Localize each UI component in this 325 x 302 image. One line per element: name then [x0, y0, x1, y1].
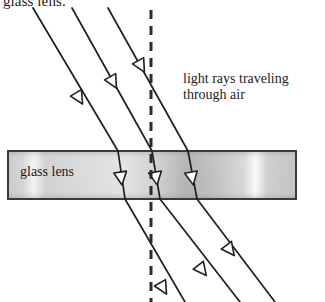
- ray-arrowhead: [132, 58, 150, 76]
- ray-arrowhead: [70, 90, 88, 108]
- ray-arrowhead: [154, 280, 172, 298]
- glass-lens-label: glass lens: [20, 164, 74, 180]
- air-label-line-1: light rays traveling: [183, 71, 289, 87]
- ray-diagram-canvas: glass lens. glass lens light rays travel…: [0, 0, 325, 302]
- light-rays-air-label: light rays traveling through air: [183, 71, 289, 103]
- ray-arrowhead: [104, 74, 122, 92]
- air-label-line-2: through air: [183, 87, 289, 103]
- top-clipped-label: glass lens.: [3, 0, 66, 10]
- optics-diagram-svg: [0, 0, 325, 302]
- ray-arrowhead: [193, 261, 211, 279]
